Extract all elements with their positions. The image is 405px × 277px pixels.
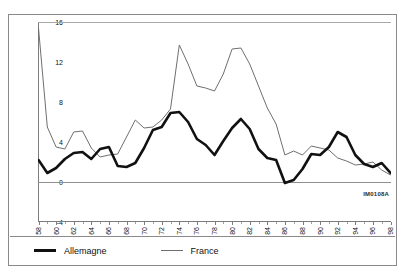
x-tick-label: 74 [176,227,183,235]
x-tick-label: 70 [141,227,148,235]
x-tick [215,222,216,225]
x-tick [100,222,101,224]
legend-label: France [191,246,219,256]
x-tick-label: 90 [317,227,324,235]
legend-swatch-icon [161,250,183,251]
x-tick-label: 64 [88,227,95,235]
x-tick [294,222,295,224]
legend-label: Allemagne [64,246,107,256]
x-tick [259,222,260,224]
x-tick [382,222,383,224]
x-tick [276,222,277,224]
x-tick [197,222,198,225]
x-tick [355,222,356,225]
x-tick [373,222,374,225]
series-canvas [38,22,391,222]
x-tick-label: 66 [105,227,112,235]
x-tick [47,222,48,224]
x-tick [303,222,304,225]
legend-item-france: France [161,246,219,256]
x-tick [391,222,392,225]
x-tick-label: 72 [158,227,165,235]
x-tick-label: 92 [334,227,341,235]
x-tick-label: 62 [70,227,77,235]
x-tick [91,222,92,225]
x-tick [109,222,110,225]
x-tick [153,222,154,224]
x-tick [267,222,268,225]
x-tick-label: 96 [369,227,376,235]
legend-item-allemagne: Allemagne [34,246,107,256]
cropped-title [0,0,405,12]
x-tick-label: 84 [264,227,271,235]
x-tick [39,222,40,225]
x-tick [162,222,163,225]
watermark-label: IM0108A [363,191,389,197]
x-tick [223,222,224,224]
x-tick [74,222,75,225]
x-tick [320,222,321,225]
x-tick-label: 86 [281,227,288,235]
x-tick-label: 82 [246,227,253,235]
legend-swatch-icon [34,249,56,252]
x-tick [311,222,312,224]
x-tick [250,222,251,225]
x-tick [171,222,172,224]
x-tick [179,222,180,225]
x-tick [338,222,339,225]
x-tick [241,222,242,224]
x-tick [232,222,233,225]
x-tick [188,222,189,224]
x-tick [329,222,330,224]
x-tick-label: 60 [53,227,60,235]
x-tick [118,222,119,224]
x-tick-label: 68 [123,227,130,235]
x-tick [285,222,286,225]
x-tick [135,222,136,224]
x-tick-label: 88 [299,227,306,235]
x-tick [65,222,66,224]
x-tick [127,222,128,225]
x-tick-label: 94 [352,227,359,235]
x-tick-label: 78 [211,227,218,235]
x-tick [83,222,84,224]
x-tick [347,222,348,224]
x-tick-label: 76 [193,227,200,235]
x-tick [144,222,145,225]
x-tick [206,222,207,224]
x-tick [364,222,365,224]
chart-frame: 16 12 8 4 0 -4 5860626466687072747678808… [8,14,397,266]
x-tick-label: 98 [387,227,394,235]
chart-legend: Allemagne France [10,236,395,264]
x-tick-label: 80 [229,227,236,235]
x-tick [56,222,57,225]
x-tick-label: 58 [35,227,42,235]
plot-area [38,22,391,222]
